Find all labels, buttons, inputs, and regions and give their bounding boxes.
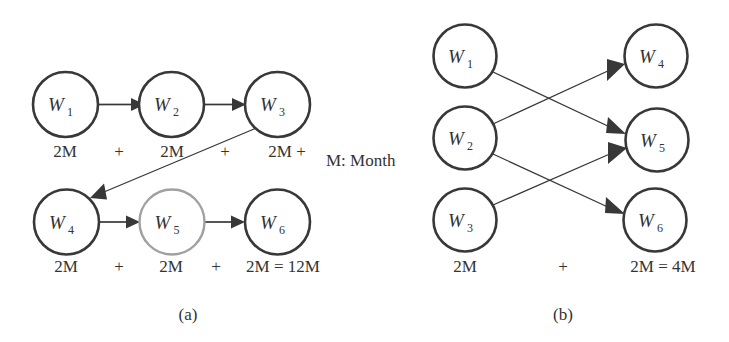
node-a-w3-label: W	[260, 94, 278, 115]
cost-a-bot-plus-2: +	[211, 257, 221, 276]
node-b-w2[interactable]: W 2	[434, 107, 497, 170]
node-a-w1-sub: 1	[67, 105, 73, 119]
caption-b: (b)	[553, 305, 573, 324]
panel-a-cost-row-top: 2M + 2M + 2M +	[53, 142, 306, 161]
edge-b-w3-w5	[493, 142, 627, 205]
node-a-w3-sub: 3	[279, 105, 285, 119]
panel-b-cost-row: 2M + 2M = 4M	[453, 257, 695, 276]
node-a-w4-sub: 4	[68, 223, 74, 237]
node-a-w2-label: W	[154, 94, 172, 115]
panel-a: W 1 W 2 W 3 W 4	[33, 72, 320, 324]
node-a-w6-sub: 6	[279, 223, 285, 237]
node-b-w3[interactable]: W 3	[434, 189, 497, 252]
node-b-w3-sub: 3	[467, 221, 473, 235]
node-b-w6-sub: 6	[657, 221, 663, 235]
node-a-w6-label: W	[260, 212, 278, 233]
node-a-w5-label: W	[155, 212, 173, 233]
edge-w2-w3	[205, 98, 246, 111]
node-a-w3[interactable]: W 3	[245, 72, 310, 137]
edge-w4-w5	[100, 216, 140, 229]
node-b-w1-sub: 1	[467, 57, 473, 71]
node-b-w5[interactable]: W 5	[626, 109, 689, 172]
cost-a-bot-2: 2M	[159, 257, 183, 276]
cost-b-1: 2M	[453, 257, 477, 276]
legend-month-label: M: Month	[326, 151, 396, 170]
node-b-w2-label: W	[448, 128, 466, 149]
panel-b-edges	[493, 59, 627, 214]
edge-b-w2-w6	[493, 154, 625, 214]
cost-a-top-2: 2M	[160, 142, 184, 161]
node-b-w6[interactable]: W 6	[624, 189, 687, 252]
cost-a-bot-1: 2M	[54, 257, 78, 276]
cost-a-bot-plus-1: +	[114, 257, 124, 276]
node-a-w4[interactable]: W 4	[34, 190, 99, 255]
node-b-w1[interactable]: W 1	[434, 25, 497, 88]
panel-a-cost-row-bottom: 2M + 2M + 2M = 12M	[54, 257, 320, 276]
cost-b-plus: +	[558, 257, 568, 276]
node-a-w4-label: W	[49, 212, 67, 233]
cost-a-top-1: 2M	[53, 142, 77, 161]
edge-b-w2-w4	[493, 59, 625, 124]
node-a-w5-sub: 5	[174, 223, 180, 237]
cost-a-bot-total: 2M = 12M	[246, 257, 320, 276]
figure-root: W 1 W 2 W 3 W 4	[0, 0, 729, 342]
node-b-w4[interactable]: W 4	[625, 25, 688, 88]
node-a-w1[interactable]: W 1	[33, 72, 98, 137]
node-b-w1-label: W	[448, 46, 466, 67]
node-a-w2-sub: 2	[173, 105, 179, 119]
node-a-w6[interactable]: W 6	[245, 190, 310, 255]
node-a-w2[interactable]: W 2	[139, 72, 204, 137]
node-b-w5-sub: 5	[659, 141, 665, 155]
node-b-w5-label: W	[640, 130, 658, 151]
cost-a-top-plus-1: +	[114, 142, 124, 161]
node-b-w3-label: W	[448, 210, 466, 231]
cost-a-top-plus-2: +	[220, 142, 230, 161]
node-a-w1-label: W	[48, 94, 66, 115]
node-b-w2-sub: 2	[467, 139, 473, 153]
edge-b-w1-w5	[493, 72, 626, 134]
caption-a: (a)	[179, 305, 198, 324]
node-b-w4-sub: 4	[658, 57, 664, 71]
cost-a-top-3: 2M +	[268, 142, 305, 161]
node-b-w6-label: W	[638, 210, 656, 231]
edge-w5-w6	[205, 216, 245, 229]
node-a-w5[interactable]: W 5	[140, 190, 205, 255]
cost-b-total: 2M = 4M	[630, 257, 695, 276]
workflow-comparison-diagram: W 1 W 2 W 3 W 4	[0, 0, 729, 342]
panel-b: W 1 W 2 W 3 W 4	[434, 25, 696, 325]
panel-b-nodes: W 1 W 2 W 3 W 4	[434, 25, 689, 252]
node-b-w4-label: W	[639, 46, 657, 67]
